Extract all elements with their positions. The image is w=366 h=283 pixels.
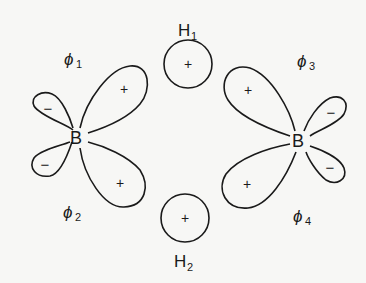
hydrogen-1: H 1 + [164,21,212,88]
phi2-label: ϕ 2 [63,203,81,223]
phi3-minus: − [327,104,336,121]
svg-text:1: 1 [76,58,82,70]
phi4-plus: + [243,176,251,192]
h2-subscript: 2 [187,261,193,273]
phi1-minus: − [44,100,53,117]
phi2-minus: − [41,156,50,173]
diborane-orbital-diagram: H 1 + + H 2 B + + − − B + + [0,0,366,283]
boron-left-label: B [70,128,82,148]
hydrogen-2: + H 2 [161,194,209,273]
svg-text:ϕ: ϕ [63,203,72,222]
phi1-small-lobe [33,93,73,130]
phi3-small-lobe [304,97,346,136]
boron-left: B + + − − [32,66,147,207]
phi4-large-lobe [222,144,296,208]
h1-label: H [178,21,190,40]
svg-text:ϕ: ϕ [64,50,73,69]
phi1-large-lobe [80,66,147,133]
boron-right: B + + − − [222,67,346,208]
phi4-label: ϕ 4 [293,207,311,227]
svg-text:4: 4 [305,215,311,227]
boron-right-label: B [292,131,304,151]
phi2-small-lobe [32,142,72,176]
svg-text:3: 3 [309,60,315,72]
phi1-plus: + [120,81,128,97]
phi4-minus: − [326,159,335,176]
phi1-label: ϕ 1 [64,50,82,70]
svg-text:ϕ: ϕ [297,52,306,71]
phi3-plus: + [244,82,252,98]
svg-text:2: 2 [75,211,81,223]
phi2-plus: + [116,175,124,191]
phi2-large-lobe [80,142,145,207]
h2-label: H [174,252,186,271]
svg-text:ϕ: ϕ [293,207,302,226]
phi3-label: ϕ 3 [297,52,315,72]
phi3-large-lobe [224,67,295,136]
h1-sign: + [184,56,192,72]
h2-sign: + [181,210,189,226]
